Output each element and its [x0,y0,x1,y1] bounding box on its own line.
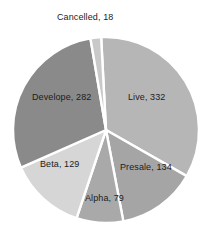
slice-label-cancelled: Cancelled, 18 [57,13,113,22]
slice-label-presale: Presale, 134 [120,163,172,172]
slice-label-beta: Beta, 129 [40,160,79,169]
pie-chart: Live, 332 Presale, 134 Alpha, 79 Beta, 1… [0,0,213,239]
slice-label-develope: Develope, 282 [32,93,91,102]
slice-label-live: Live, 332 [128,93,165,102]
slice-label-alpha: Alpha, 79 [85,194,124,203]
pie-chart-canvas [0,0,213,239]
